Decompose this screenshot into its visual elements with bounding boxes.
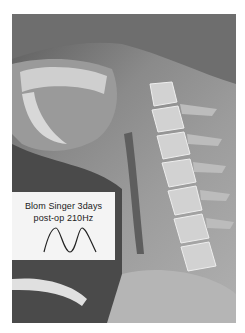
- shoulder: [107, 270, 236, 323]
- airway: [124, 132, 144, 254]
- xray-shapes: [12, 14, 236, 323]
- vertebra: [150, 82, 177, 106]
- xray-image: [12, 14, 236, 323]
- vertebra: [181, 242, 216, 271]
- label-subtitle: post-op 210Hz: [12, 213, 115, 223]
- vertebra: [168, 186, 202, 215]
- vertebra: [174, 214, 209, 243]
- vertebra: [152, 106, 184, 132]
- label-title: Blom Singer 3days: [12, 201, 115, 211]
- vertebra: [157, 132, 190, 159]
- voice-label-box: Blom Singer 3days post-op 210Hz: [12, 192, 115, 260]
- vertebra: [162, 159, 196, 187]
- waveform-icon: [42, 226, 98, 254]
